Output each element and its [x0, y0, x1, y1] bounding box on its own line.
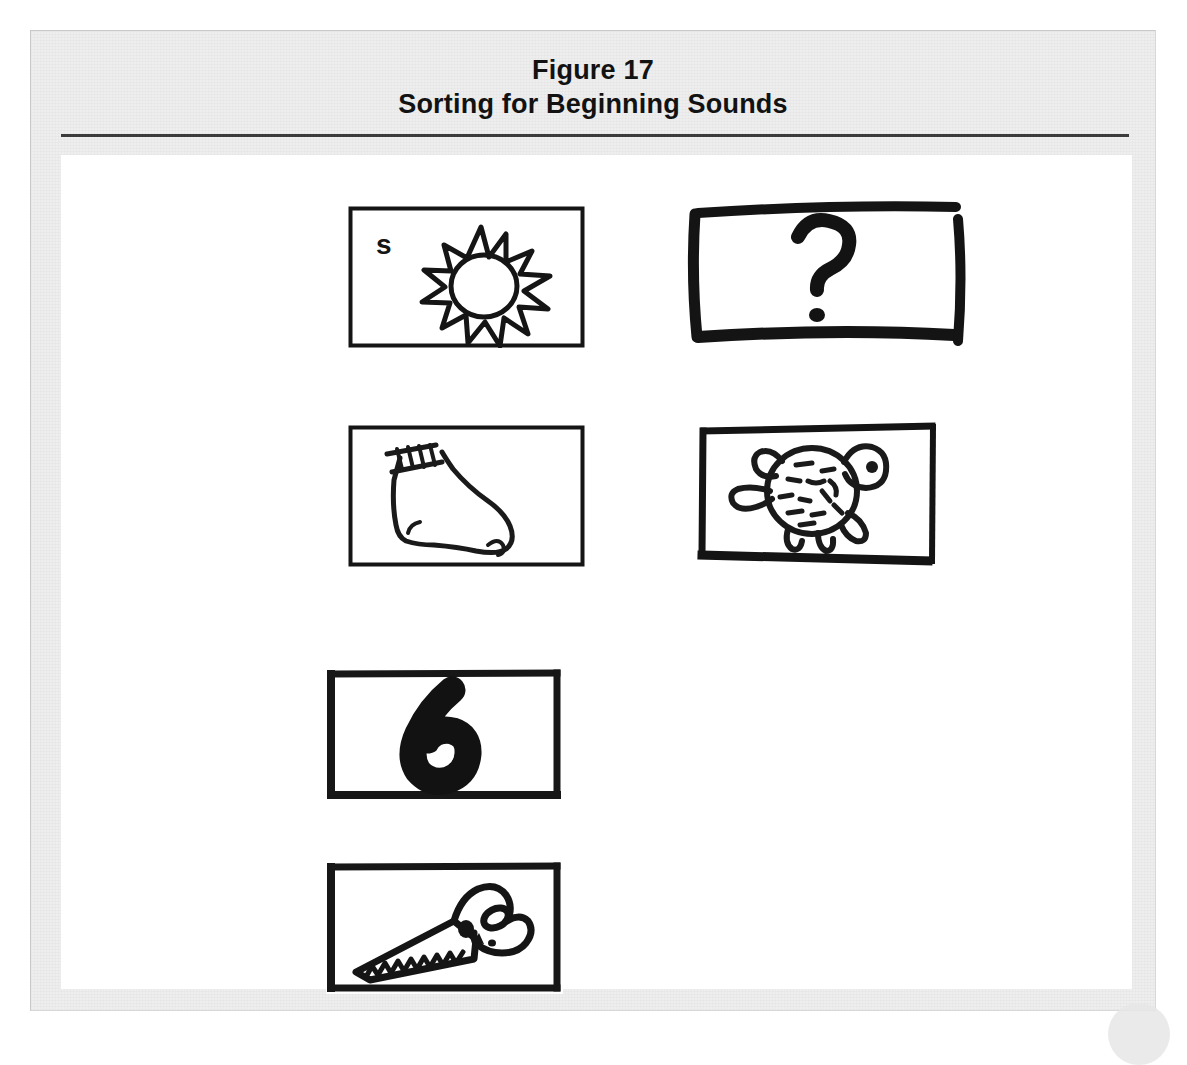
figure-title-line-1: Figure 17: [532, 55, 654, 85]
title-divider-rule: [61, 134, 1129, 137]
figure-title-line-2: Sorting for Beginning Sounds: [31, 87, 1155, 121]
turtle-icon: [731, 446, 886, 551]
card-six[interactable]: [326, 668, 563, 801]
numeral-six-glyph: [413, 690, 468, 781]
card-border: [351, 428, 583, 565]
card-turtle[interactable]: [696, 419, 941, 569]
saw-icon: [356, 887, 531, 980]
figure-title: Figure 17 Sorting for Beginning Sounds: [31, 53, 1155, 121]
question-mark-icon: [798, 220, 849, 322]
card-question-mark[interactable]: [686, 195, 971, 350]
sun-card-drawing: s: [348, 206, 585, 348]
numeral-six-card-drawing: [326, 668, 563, 801]
card-sun[interactable]: s: [348, 206, 585, 348]
turtle-card-drawing: [696, 419, 941, 569]
figure-content-plate: s: [61, 155, 1132, 989]
scan-corner-artifact: [1108, 1003, 1170, 1065]
letter-label-s: s: [376, 229, 392, 260]
figure-panel: Figure 17 Sorting for Beginning Sounds s: [30, 30, 1156, 1011]
card-sock[interactable]: [348, 425, 585, 567]
sock-card-drawing: [348, 425, 585, 567]
question-mark-card-drawing: [686, 195, 971, 350]
card-saw[interactable]: [326, 861, 563, 994]
saw-card-drawing: [326, 861, 563, 994]
